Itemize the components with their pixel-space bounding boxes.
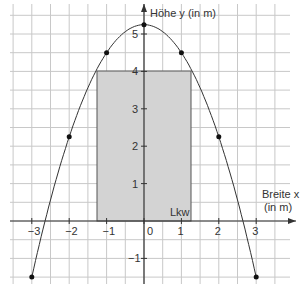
data-point <box>216 134 221 139</box>
y-tick-label: 4 <box>132 65 138 77</box>
data-point <box>67 134 72 139</box>
x-tick-label: 2 <box>215 225 221 237</box>
data-point <box>104 50 109 55</box>
y-axis-arrow-icon <box>141 4 147 12</box>
x-axis-label-line1: Breite x <box>262 188 300 200</box>
x-tick-label: 1 <box>177 225 183 237</box>
y-axis-label: Höhe y (in m) <box>150 7 216 19</box>
y-tick-label: 3 <box>132 103 138 115</box>
y-tick-label: −1 <box>128 252 141 264</box>
data-point <box>29 275 34 280</box>
y-tick-label: 1 <box>132 178 138 190</box>
x-tick-label: 3 <box>252 225 258 237</box>
data-point <box>179 50 184 55</box>
data-point <box>142 22 147 27</box>
x-tick-label: −3 <box>28 225 41 237</box>
data-point <box>254 275 259 280</box>
x-tick-label: −1 <box>103 225 116 237</box>
x-axis-label-line2: (in m) <box>264 201 292 213</box>
x-tick-label: 0 <box>147 225 153 237</box>
truck-label: Lkw <box>170 206 190 218</box>
y-tick-label: 2 <box>132 140 138 152</box>
coordinate-diagram: −3−2−10123−112345 Höhe y (in m) Breite x… <box>0 0 301 287</box>
y-tick-label: 5 <box>132 28 138 40</box>
x-axis-arrow-icon <box>288 218 296 224</box>
x-tick-label: −2 <box>65 225 78 237</box>
